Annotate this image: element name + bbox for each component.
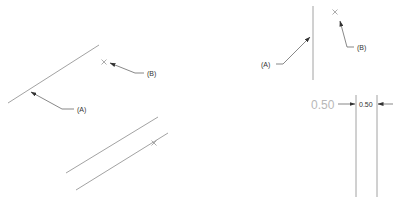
x-mark-icon [102,60,107,65]
x-mark-icon [333,10,338,15]
dimension-text-large: 0.50 [311,98,335,112]
leader-a [31,92,74,109]
leader-a [276,37,310,64]
parallel-line-2 [76,133,168,190]
left-figure: (A) (B) [8,45,168,190]
leader-b [340,21,354,47]
label-a: (A) [77,106,86,114]
diagram-canvas: (A) (B) (A) (B) 0.50 0.50 [0,0,394,203]
label-a: (A) [261,61,270,69]
right-figure: (A) (B) 0.50 0.50 [261,6,393,197]
parallel-line-1 [66,117,158,173]
dimension-text-small: 0.50 [359,101,373,108]
label-b: (B) [357,44,366,52]
label-b: (B) [147,70,156,78]
leader-b [110,63,144,73]
line-a [8,45,99,103]
